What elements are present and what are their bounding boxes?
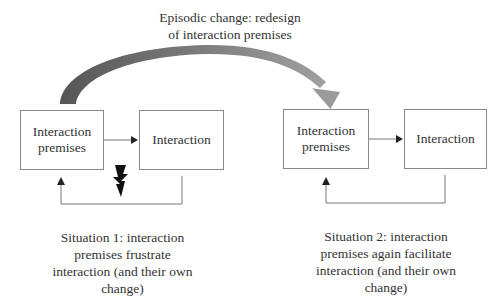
s1-interaction-label: Interaction [152,132,210,148]
s2-caption-line-1: Situation 2: interaction [316,228,456,245]
episodic-change-arrow [60,45,340,110]
s2-premises-line-1: Interaction [297,123,355,139]
s1-caption-line-1: Situation 1: interaction [50,229,195,246]
s2-caption-line-4: change) [316,279,456,296]
s1-caption-line-3: interaction (and their own [50,263,195,280]
s1-premises-line-1: Interaction [33,124,91,140]
s2-forward-arrow [369,135,403,143]
s2-interaction-box: Interaction [404,109,487,169]
s2-caption-line-3: interaction (and their own [316,262,456,279]
s1-caption-line-4: change) [50,280,195,297]
situation-2-caption: Situation 2: interaction premises again … [316,228,456,296]
s2-interaction-label: Interaction [416,131,474,147]
s2-premises-line-2: premises [297,139,355,155]
s1-forward-arrow [104,136,138,144]
s2-interaction-premises-box: Interaction premises [283,109,369,169]
s2-caption-line-2: premises again facilitate [316,245,456,262]
s1-caption-line-2: premises frustrate [50,246,195,263]
s1-interaction-premises-box: Interaction premises [20,110,104,170]
s1-premises-line-2: premises [33,140,91,156]
s2-feedback-arrow [322,175,445,203]
lightning-bolt-icon [113,165,128,197]
situation-1-caption: Situation 1: interaction premises frustr… [50,229,195,297]
s1-interaction-box: Interaction [139,110,224,170]
